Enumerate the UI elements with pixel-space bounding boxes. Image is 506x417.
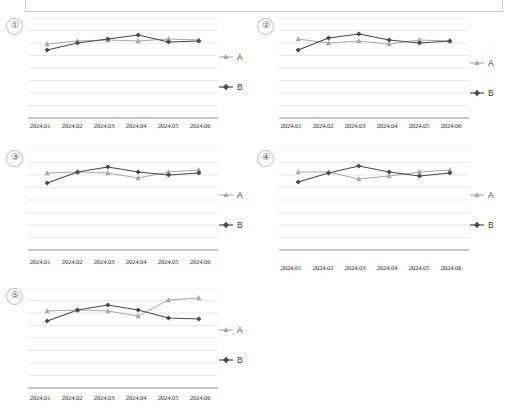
panel-index-4: ④ [257, 150, 274, 167]
diamond-marker-icon [218, 220, 234, 230]
legend-label-a: A [488, 58, 494, 68]
triangle-marker-icon [218, 52, 234, 62]
x-tick-label: 2024.04 [120, 394, 152, 401]
x-tick-label: 2024.06 [435, 264, 467, 271]
legend-label-b: B [488, 220, 494, 230]
x-tick-label: 2024.04 [371, 122, 403, 129]
x-tick-label: 2024.06 [184, 258, 216, 265]
x-tick-label: 2024.06 [184, 122, 216, 129]
x-tick-label: 2024.05 [152, 394, 184, 401]
x-tick-label: 2024.06 [435, 122, 467, 129]
legend-item-a[interactable]: A [469, 58, 494, 68]
x-tick-label: 2024.06 [184, 394, 216, 401]
x-tick-label: 2024.01 [275, 122, 307, 129]
panel-index-2: ② [257, 18, 274, 35]
x-tick-label: 2024.05 [152, 258, 184, 265]
x-tick-label: 2024.03 [339, 122, 371, 129]
x-tick-label: 2024.03 [88, 258, 120, 265]
legend-label-b: B [237, 220, 243, 230]
legend-item-a[interactable]: A [218, 52, 243, 62]
plot-area-3 [28, 150, 218, 254]
x-tick-label: 2024.03 [88, 122, 120, 129]
x-tick-label: 2024.04 [371, 264, 403, 271]
x-axis-labels-3: 2024.012024.022024.032024.042024.052024.… [24, 258, 216, 265]
x-tick-label: 2024.02 [307, 264, 339, 271]
legend-2: AB [469, 58, 494, 118]
legend-label-a: A [237, 52, 243, 62]
plot-area-2 [279, 18, 469, 122]
x-tick-label: 2024.01 [24, 394, 56, 401]
legend-label-a: A [237, 325, 243, 335]
legend-3: AB [218, 190, 243, 250]
legend-item-b[interactable]: B [218, 220, 243, 230]
triangle-marker-icon [218, 325, 234, 335]
x-tick-label: 2024.03 [339, 264, 371, 271]
legend-1: AB [218, 52, 243, 112]
x-tick-label: 2024.02 [56, 122, 88, 129]
x-tick-label: 2024.05 [403, 264, 435, 271]
top-border-box [25, 0, 503, 12]
diamond-marker-icon [218, 355, 234, 365]
x-tick-label: 2024.02 [56, 394, 88, 401]
x-tick-label: 2024.03 [88, 394, 120, 401]
legend-item-a[interactable]: A [469, 190, 494, 200]
x-tick-label: 2024.05 [152, 122, 184, 129]
x-tick-label: 2024.04 [120, 258, 152, 265]
triangle-marker-icon [469, 190, 485, 200]
legend-label-a: A [488, 190, 494, 200]
legend-4: AB [469, 190, 494, 250]
plot-area-5 [28, 288, 218, 392]
x-tick-label: 2024.02 [56, 258, 88, 265]
x-tick-label: 2024.02 [307, 122, 339, 129]
legend-item-b[interactable]: B [218, 82, 243, 92]
legend-label-b: B [237, 82, 243, 92]
panel-index-5: ⑤ [6, 288, 23, 305]
x-tick-label: 2024.01 [24, 258, 56, 265]
legend-label-b: B [237, 355, 243, 365]
panel-index-3: ③ [6, 150, 23, 167]
x-axis-labels-5: 2024.012024.022024.032024.042024.052024.… [24, 394, 216, 401]
diamond-marker-icon [469, 220, 485, 230]
x-axis-labels-2: 2024.012024.022024.032024.042024.052024.… [275, 122, 467, 129]
triangle-marker-icon [469, 58, 485, 68]
legend-5: AB [218, 325, 243, 385]
x-tick-label: 2024.01 [24, 122, 56, 129]
legend-label-a: A [237, 190, 243, 200]
legend-item-b[interactable]: B [218, 355, 243, 365]
x-tick-label: 2024.05 [403, 122, 435, 129]
plot-area-4 [279, 150, 469, 254]
panel-index-1: ① [6, 18, 23, 35]
legend-item-a[interactable]: A [218, 190, 243, 200]
legend-item-a[interactable]: A [218, 325, 243, 335]
diamond-marker-icon [218, 82, 234, 92]
legend-item-b[interactable]: B [469, 88, 494, 98]
plot-area-1 [28, 18, 218, 122]
legend-item-b[interactable]: B [469, 220, 494, 230]
diamond-marker-icon [469, 88, 485, 98]
legend-label-b: B [488, 88, 494, 98]
x-tick-label: 2024.01 [275, 264, 307, 271]
x-axis-labels-1: 2024.012024.022024.032024.042024.052024.… [24, 122, 216, 129]
triangle-marker-icon [218, 190, 234, 200]
x-tick-label: 2024.04 [120, 122, 152, 129]
x-axis-labels-4: 2024.012024.022024.032024.042024.052024.… [275, 264, 467, 271]
